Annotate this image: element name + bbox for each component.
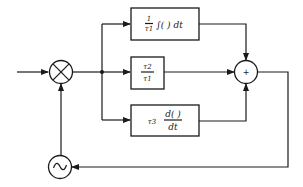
proportional-coef-den: τ1	[143, 75, 151, 83]
oscillator-node	[49, 156, 72, 179]
derivative-block: τ3 d( ) dt	[131, 105, 199, 136]
integral-block: 1 τ1 ∫( ) dt	[131, 8, 199, 40]
multiplier-node	[50, 61, 73, 84]
derivative-op-num: d( )	[165, 109, 181, 119]
summer-node: +	[235, 61, 258, 84]
derivative-to-summer-arrow	[199, 84, 246, 121]
proportional-block: τ2 τ1	[131, 57, 164, 89]
derivative-op-den: dt	[168, 122, 178, 132]
integral-coef-den: τ1	[145, 25, 153, 33]
integral-to-summer-arrow	[199, 24, 246, 60]
derivative-coef: τ3	[148, 118, 157, 126]
proportional-coef-num: τ2	[143, 63, 152, 71]
plus-icon: +	[243, 68, 250, 77]
integral-operator: ∫( ) dt	[156, 20, 183, 30]
integral-coef-num: 1	[147, 15, 151, 23]
block-diagram: 1 τ1 ∫( ) dt τ2 τ1 τ3 d( ) dt +	[0, 0, 303, 187]
